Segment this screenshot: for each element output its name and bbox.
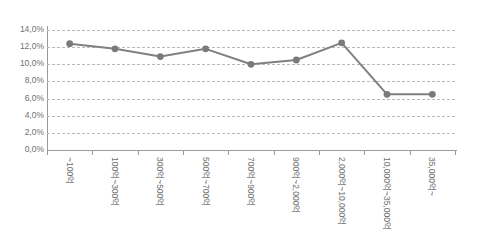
x-axis-tick bbox=[274, 150, 275, 155]
x-axis-category-label: 500억~700억 bbox=[201, 157, 210, 206]
x-axis-tick bbox=[410, 150, 411, 155]
data-point-marker bbox=[112, 45, 119, 52]
x-axis-tick bbox=[138, 150, 139, 155]
line-chart: 0,0%2,0%4,0%6,0%8,0%10,0%12,0%14,0% ~100… bbox=[0, 0, 484, 247]
data-point-marker bbox=[338, 39, 345, 46]
data-point-marker bbox=[293, 57, 300, 64]
x-axis-tick bbox=[228, 150, 229, 155]
data-point-marker bbox=[248, 61, 255, 68]
x-axis-category-label: 10,000억~35,000억 bbox=[382, 157, 391, 230]
series-line-group bbox=[0, 0, 484, 247]
x-axis-category-label: 900억~2,000억 bbox=[291, 157, 300, 213]
x-axis-tick bbox=[364, 150, 365, 155]
x-axis-tick bbox=[47, 150, 48, 155]
data-point-marker bbox=[157, 53, 164, 60]
x-axis-category-label: ~100억 bbox=[65, 157, 74, 184]
x-axis-category-label: 700억~900억 bbox=[246, 157, 255, 206]
data-point-marker bbox=[429, 91, 436, 98]
x-axis-category-label: 2,000억~10,000억 bbox=[337, 157, 346, 225]
x-axis-tick bbox=[319, 150, 320, 155]
x-axis-category-label: 100억~300억 bbox=[110, 157, 119, 206]
data-point-marker bbox=[66, 40, 73, 47]
x-axis-category-label: 35,000억~ bbox=[427, 157, 436, 196]
data-point-marker bbox=[202, 45, 209, 52]
x-axis-tick bbox=[183, 150, 184, 155]
series-line bbox=[70, 43, 433, 94]
x-axis-tick bbox=[92, 150, 93, 155]
x-axis-tick bbox=[455, 150, 456, 155]
data-point-marker bbox=[384, 91, 391, 98]
x-axis-category-label: 300억~500억 bbox=[155, 157, 164, 206]
